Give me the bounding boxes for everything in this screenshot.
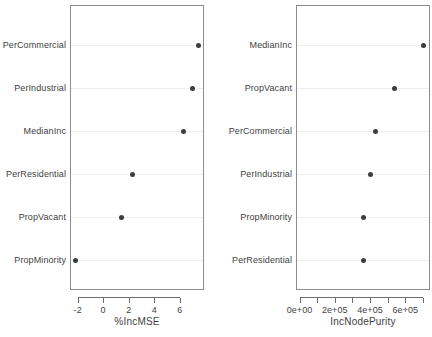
axis-tick [180,298,181,303]
axis-tick-label: 6e+05 [392,305,418,315]
data-point [368,172,373,177]
axis-tick [352,298,353,303]
data-point [196,43,201,48]
axis-tick-label: 2e+05 [322,305,348,315]
axis-tick [154,298,155,303]
category-label: PerIndustrial [240,169,292,179]
category-label: PropMinority [14,255,66,265]
axis-tick [405,298,406,303]
panel-incmse [70,5,204,290]
axis-tick-label: 4e+05 [357,305,383,315]
category-label: PerCommercial [229,126,292,136]
axis-tick-label: 2 [126,305,131,315]
gridline [71,174,203,175]
axis-tick-label: 6 [177,305,182,315]
category-label: PropMinority [240,212,292,222]
data-point [361,215,366,220]
category-label: PerResidential [6,169,66,179]
data-point [361,258,366,263]
category-label: PerResidential [232,255,292,265]
gridline [71,217,203,218]
axis-tick [129,298,130,303]
axis-tick [103,298,104,303]
data-point [73,258,78,263]
data-point [119,215,124,220]
category-label: PropVacant [245,83,292,93]
category-label: PerIndustrial [14,83,66,93]
axis-tick-label: 0e+00 [287,305,313,315]
axis-tick-label: -2 [74,305,82,315]
x-axis-title-incnodepurity: IncNodePurity [330,316,395,327]
category-label: PropVacant [19,212,66,222]
variable-importance-figure: PerCommercialPerIndustrialMedianIncPerRe… [0,0,432,337]
data-point [392,86,397,91]
category-label: MedianInc [24,126,66,136]
axis-tick-label: 0 [101,305,106,315]
axis-tick [78,298,79,303]
gridline [71,260,203,261]
category-label: PerCommercial [3,40,66,50]
axis-tick [423,298,424,303]
axis-tick [300,298,301,303]
axis-tick-label: 4 [152,305,157,315]
data-point [181,129,186,134]
x-axis-title-incmse: %IncMSE [114,316,159,327]
axis-tick [370,298,371,303]
axis-tick [388,298,389,303]
gridline [71,88,203,89]
data-point [421,43,426,48]
gridline [297,45,429,46]
data-point [190,86,195,91]
category-label: MedianInc [250,40,292,50]
panel-incnodepurity [296,5,430,290]
gridline [297,131,429,132]
axis-tick [335,298,336,303]
data-point [130,172,135,177]
gridline [297,88,429,89]
gridline [71,45,203,46]
data-point [373,129,378,134]
axis-tick [317,298,318,303]
gridline [297,174,429,175]
